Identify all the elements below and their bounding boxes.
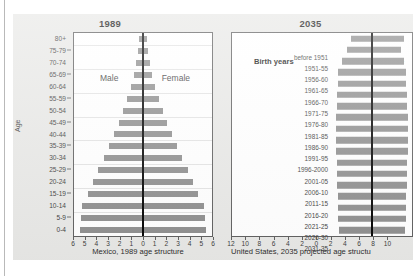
bar-female (372, 148, 408, 155)
birth-year-label: 1951-55 (305, 64, 330, 71)
bar-male (88, 191, 143, 197)
birth-year-label: 2011-15 (305, 200, 330, 207)
population-pyramid-figure: 1989 Age 80+75-7970-7465-6960-6455-5950-… (13, 14, 413, 260)
age-label: 80+ (55, 34, 66, 41)
x-tick-label: 6 (71, 240, 75, 247)
bar-male (81, 215, 143, 221)
bar-female (143, 203, 204, 209)
bar-male (336, 114, 372, 121)
bar-female (143, 84, 155, 90)
bar-male (104, 155, 143, 161)
age-label: 55-59 (49, 94, 66, 101)
panel-united-states-2035: 2035 Birth years Male Female before 1951… (213, 14, 413, 260)
age-tick (67, 193, 71, 194)
age-tick (67, 49, 71, 50)
age-label: 30-34 (49, 154, 66, 161)
x-tick-label: 4 (286, 240, 290, 247)
age-tick (67, 121, 71, 122)
left-caption: Mexico, 1989 age structure (63, 247, 213, 256)
bar-male (338, 193, 372, 200)
left-panel-title: 1989 (35, 18, 185, 29)
x-tick-label: 10 (242, 240, 249, 247)
bar-female (372, 193, 406, 200)
bar-male (336, 148, 372, 155)
bar-female (143, 215, 205, 221)
bar-female (372, 114, 408, 121)
x-tick-label: 8 (371, 240, 375, 247)
bar-female (372, 159, 407, 166)
birth-year-label-group: before 19511951-551956-601961-651966-701… (232, 51, 330, 256)
x-tick-label: 2 (300, 240, 304, 247)
bar-male (339, 227, 372, 234)
bar-male (82, 203, 143, 209)
x-tick-label: 2 (118, 240, 122, 247)
x-tick-label: 4 (343, 240, 347, 247)
left-age-label-group: 80+75-7970-7465-6960-6455-5950-5445-4940… (13, 32, 71, 237)
x-tick-label: 2 (164, 240, 168, 247)
x-tick-label: 1 (129, 240, 133, 247)
bar-male (338, 80, 372, 87)
bar-male (337, 92, 372, 99)
birth-year-label: 1991-95 (305, 155, 330, 162)
bar-female (372, 182, 407, 189)
x-tick-label: 8 (258, 240, 262, 247)
panel-mexico-1989: 1989 Age 80+75-7970-7465-6960-6455-5950-… (13, 14, 213, 260)
bar-male (93, 179, 143, 185)
bar-male (80, 227, 143, 233)
age-tick (67, 145, 71, 146)
age-label: 40-44 (49, 130, 66, 137)
bar-male (336, 137, 372, 144)
age-label: 45-49 (49, 118, 66, 125)
birth-year-label: before 1951 (294, 53, 330, 60)
bar-male (351, 35, 372, 42)
x-tick-label: 0 (314, 240, 318, 247)
bar-female (143, 191, 198, 197)
age-label: 75-79 (49, 46, 66, 53)
birth-year-label: 1966-70 (305, 98, 330, 105)
x-tick-label: 12 (227, 240, 234, 247)
age-label: 65-69 (49, 70, 66, 77)
bar-female (143, 143, 177, 149)
birth-year-label: 1956-60 (305, 76, 330, 83)
age-label: 10-14 (49, 202, 66, 209)
birth-year-label: 2001-05 (305, 177, 330, 184)
right-plot-area: Birth years Male Female before 19511951-… (231, 32, 413, 237)
x-tick-label: 5 (199, 240, 203, 247)
bar-male (337, 103, 372, 110)
x-tick-label: 2 (329, 240, 333, 247)
birth-year-label: 2021-25 (305, 222, 330, 229)
age-label: 35-39 (49, 142, 66, 149)
bar-female (372, 204, 406, 211)
birth-year-label: 1971-75 (305, 110, 330, 117)
bar-male (123, 108, 143, 114)
age-label: 0-4 (56, 226, 66, 233)
bar-female (143, 227, 206, 233)
bar-female (143, 108, 163, 114)
bar-female (143, 72, 152, 78)
right-caption: United States, 2035 projected age struct… (231, 247, 413, 256)
age-tick (67, 97, 71, 98)
bar-male (119, 120, 143, 126)
bar-male (127, 96, 143, 102)
x-tick-label: 3 (106, 240, 110, 247)
right-panel-title: 2035 (223, 18, 398, 29)
birth-year-label: 1961-65 (305, 87, 330, 94)
bar-female (372, 47, 401, 54)
bar-female (372, 216, 406, 223)
age-tick (67, 169, 71, 170)
x-tick-label: 4 (94, 240, 98, 247)
bar-male (114, 131, 143, 137)
left-plot-area: Male Female (73, 32, 213, 237)
bar-female (372, 80, 406, 87)
bar-female (372, 35, 404, 42)
age-label: 25-29 (49, 166, 66, 173)
bar-male (337, 182, 372, 189)
x-tick-label: 1 (153, 240, 157, 247)
x-tick-label: 6 (272, 240, 276, 247)
age-label: 60-64 (49, 82, 66, 89)
birth-year-label: 2006-10 (305, 188, 330, 195)
left-legend-female: Female (162, 73, 190, 83)
left-center-axis (142, 33, 144, 236)
bar-female (143, 179, 193, 185)
age-tick (67, 73, 71, 74)
